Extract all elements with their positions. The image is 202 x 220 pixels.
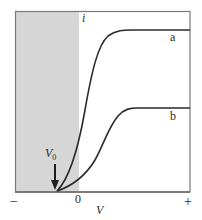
shaded-negative-region	[15, 11, 79, 192]
threshold-label-subscript: 0	[52, 153, 56, 162]
curve-b-label: b	[170, 109, 176, 123]
x-tick-zero: 0	[75, 192, 81, 206]
x-tick-negative: −	[10, 194, 18, 209]
y-axis-label: i	[82, 11, 85, 25]
iv-characteristic-diagram: i a b V0 − 0 V +	[0, 0, 202, 220]
x-axis-label: V	[96, 203, 105, 217]
curve-a-label: a	[170, 30, 176, 44]
x-tick-positive: +	[184, 194, 192, 209]
